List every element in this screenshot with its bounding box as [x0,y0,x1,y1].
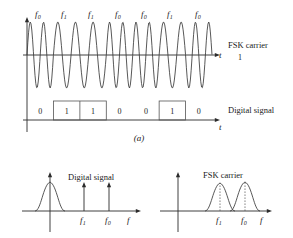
freq-label-4: f0 [141,9,147,20]
freq-label-2: f1 [88,9,94,20]
left-axis-label: f [127,215,131,225]
digital-bit-label: 0 [144,107,148,116]
panel-right-spectrum: FSK carrier f1 f0 f [160,170,272,232]
left-impulse-f1 [82,182,86,211]
right-frequency-axis-arrow [267,209,272,213]
right-vertical-axis-arrow [176,172,180,177]
left-tick-label-f1: f1 [80,215,86,226]
digital-bit-label: 1 [170,107,174,116]
panel-left-spectrum: Digital signal f1 f0 f [22,172,141,232]
right-panel-title: FSK carrier [203,170,243,180]
digital-axis-label: t [219,122,222,132]
panel-a: f0 f1 f1 f0 f0 f1 f0 t FSK carrier 1 011… [23,9,275,143]
freq-label-5: f1 [167,9,173,20]
fsk-modulation-figure: f0 f1 f1 f0 f0 f1 f0 t FSK carrier 1 011… [0,0,293,238]
carrier-frequency-labels: f0 f1 f1 f0 f0 f1 f0 [35,9,201,20]
right-tick-label-f1: f1 [216,215,222,226]
digital-bit-label: 0 [118,107,122,116]
freq-label-3: f0 [115,9,121,20]
digital-bit-label: 0 [38,107,42,116]
digital-title-label: Digital signal [228,105,275,115]
carrier-axis-label: t [219,50,222,60]
freq-label-1: f1 [61,9,67,20]
left-tick-label-f0: f0 [105,215,111,226]
left-frequency-axis-arrow [136,209,141,213]
digital-bit-label: 1 [91,107,95,116]
carrier-level-label: 1 [238,53,242,62]
digital-bit-label: 1 [65,107,69,116]
right-tick-label-f0: f0 [241,215,247,226]
digital-signal-bit-labels: 0110010 [38,107,201,116]
left-vertical-axis-arrow [48,172,52,177]
digital-bit-label: 0 [197,107,201,116]
right-axis-label: f [260,215,264,225]
figure-caption: (a) [134,133,145,143]
carrier-title-label: FSK carrier [228,40,268,50]
freq-label-0: f0 [35,9,41,20]
left-impulse-f0 [107,182,111,211]
panel-a-vertical-axis-arrow [25,17,29,22]
freq-label-6: f0 [195,9,201,20]
left-panel-title: Digital signal [68,172,115,182]
